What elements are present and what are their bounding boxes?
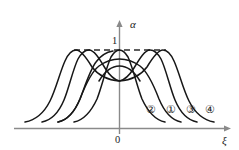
- y-axis-arrowhead: [116, 20, 122, 27]
- origin-label: 0: [115, 134, 120, 145]
- y-axis-label: α: [130, 18, 136, 30]
- y-tick-label-one: 1: [112, 35, 117, 46]
- curve-label-3: ③: [186, 104, 196, 115]
- x-axis-label: ξ: [222, 134, 227, 147]
- curve-label-4: ④: [205, 104, 215, 115]
- x-axis-arrowhead: [224, 125, 231, 131]
- alpha-xi-plot: α ξ 1 0 ② ① ③ ④: [0, 0, 239, 150]
- figure-container: α ξ 1 0 ② ① ③ ④: [0, 0, 239, 150]
- curve-label-1: ①: [166, 104, 176, 115]
- curve-label-2: ②: [146, 104, 156, 115]
